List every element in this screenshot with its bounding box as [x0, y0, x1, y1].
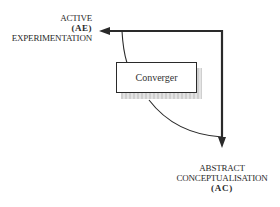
arrowhead-down-icon — [218, 137, 226, 148]
ac-code: (AC) — [172, 183, 272, 193]
ac-line2: CONCEPTUALISATION — [172, 173, 272, 183]
converger-box: Converger — [116, 62, 197, 93]
ae-line2: EXPERIMENTATION — [12, 33, 92, 43]
arrowhead-left-icon — [99, 27, 110, 35]
active-experimentation-label: ACTIVE (AE) EXPERIMENTATION — [12, 13, 92, 43]
ac-line1: ABSTRACT — [172, 163, 272, 173]
converger-label: Converger — [135, 72, 177, 83]
ae-code: (AE) — [12, 23, 92, 33]
ae-line1: ACTIVE — [12, 13, 92, 23]
abstract-conceptualisation-label: ABSTRACT CONCEPTUALISATION (AC) — [172, 163, 272, 193]
quadrant-arc-bottom — [149, 100, 222, 137]
quadrant-arc-top — [122, 31, 127, 63]
